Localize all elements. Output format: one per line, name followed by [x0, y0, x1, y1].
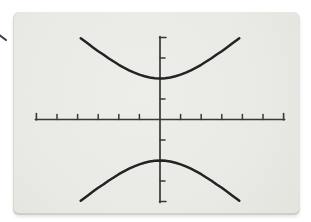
page — [0, 0, 311, 222]
calculator-screen — [13, 12, 300, 215]
page-edge-artifact-mark — [0, 33, 7, 42]
graph-svg — [13, 12, 300, 215]
